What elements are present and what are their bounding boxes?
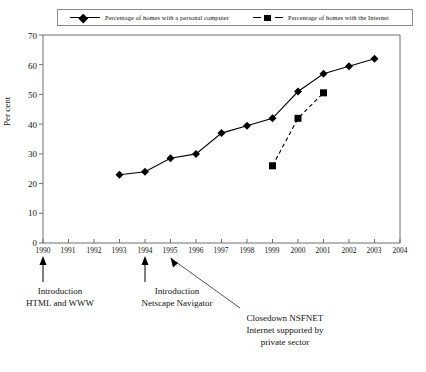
annotation-arrow-netscape [142,256,149,282]
series-line-internet [273,93,324,166]
annotation-line: Netscape Navigator [122,297,232,309]
annotation-line: private sector [200,336,370,348]
series-line-personal-computer [120,59,375,175]
annotation-line: Closedown NSFNET [200,312,370,324]
y-tick-marks [39,35,43,243]
chart-figure: Percentage of homes with a personal comp… [0,0,426,372]
annotation-arrow-html-www [40,256,47,282]
x-tick-marks [43,239,400,243]
annotation-line: HTML and WWW [5,297,115,309]
annotation-line: Internet supported by [200,324,370,336]
series-markers-personal-computer [116,55,379,179]
series-markers-internet [269,89,327,169]
annotation-line: Introduction [122,285,232,297]
annotation-introduction-html-www: Introduction HTML and WWW [5,285,115,309]
annotation-introduction-netscape: Introduction Netscape Navigator [122,285,232,309]
annotation-line: Introduction [5,285,115,297]
annotation-closedown-nsfnet: Closedown NSFNET Internet supported by p… [200,312,370,348]
